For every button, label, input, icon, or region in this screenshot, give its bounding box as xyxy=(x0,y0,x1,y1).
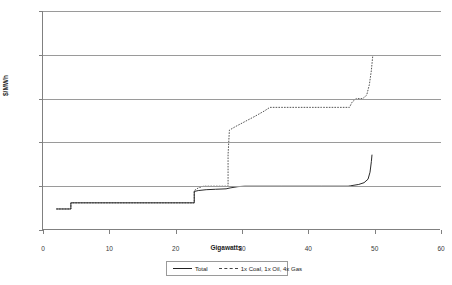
gridline-y-250 xyxy=(43,11,441,12)
supply-curve-chart: $/MWh 0501001502002500102030405060 Gigaw… xyxy=(0,0,452,285)
y-axis-title: $/MWh xyxy=(2,75,9,96)
x-tick-30 xyxy=(242,230,243,234)
legend-swatch-solid-icon xyxy=(173,266,192,271)
x-tick-10 xyxy=(109,230,110,234)
plot-area: 0501001502002500102030405060 xyxy=(42,11,440,230)
x-tick-0 xyxy=(43,230,44,234)
chart-legend: Total 1x Coal, 1x Oil, 4x Gas xyxy=(166,261,288,276)
x-tick-20 xyxy=(176,230,177,234)
legend-label-coal-oil-gas: 1x Coal, 1x Oil, 4x Gas xyxy=(241,266,302,272)
legend-item-coal-oil-gas[interactable]: 1x Coal, 1x Oil, 4x Gas xyxy=(219,266,302,272)
legend-swatch-dashed-icon xyxy=(219,266,238,271)
series-layer xyxy=(43,11,441,230)
y-tick-50 xyxy=(39,186,43,187)
series-line-total xyxy=(56,155,372,209)
legend-label-total: Total xyxy=(195,266,208,272)
gridline-y-50 xyxy=(43,186,441,187)
y-tick-200 xyxy=(39,55,43,56)
y-tick-100 xyxy=(39,142,43,143)
gridline-y-200 xyxy=(43,55,441,56)
x-axis-title: Gigawatts xyxy=(0,244,452,251)
gridline-y-150 xyxy=(43,99,441,100)
y-tick-250 xyxy=(39,11,43,12)
x-tick-50 xyxy=(375,230,376,234)
x-tick-40 xyxy=(308,230,309,234)
y-tick-150 xyxy=(39,99,43,100)
gridline-y-100 xyxy=(43,142,441,143)
legend-item-total[interactable]: Total xyxy=(173,266,208,272)
x-tick-60 xyxy=(441,230,442,234)
